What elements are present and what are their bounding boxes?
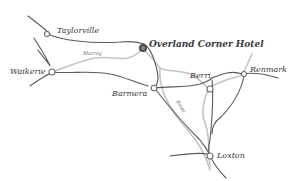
map-canvas: Taylorville Waikerie Barmera Berri Renma… xyxy=(0,0,304,181)
loxton-marker-icon xyxy=(207,153,213,159)
renmark-marker-icon xyxy=(242,72,247,77)
map-paths xyxy=(0,0,304,181)
town-label-barmera: Barmera xyxy=(112,90,147,98)
taylorville-marker-icon xyxy=(45,32,50,37)
hotel-marker-icon xyxy=(139,44,147,52)
river-label-murray: Murray xyxy=(83,51,102,56)
town-label-berri: Berri xyxy=(190,72,211,80)
town-label-waikerie: Waikerie xyxy=(10,68,46,76)
town-label-loxton: Loxton xyxy=(217,152,245,160)
landmark-label-overland-corner-hotel: Overland Corner Hotel xyxy=(149,40,264,49)
town-label-taylorville: Taylorville xyxy=(57,27,99,35)
barmera-marker-icon xyxy=(151,85,157,91)
town-label-renmark: Renmark xyxy=(250,66,287,74)
berri-marker-icon xyxy=(207,86,213,92)
waikerie-marker-icon xyxy=(49,69,55,75)
